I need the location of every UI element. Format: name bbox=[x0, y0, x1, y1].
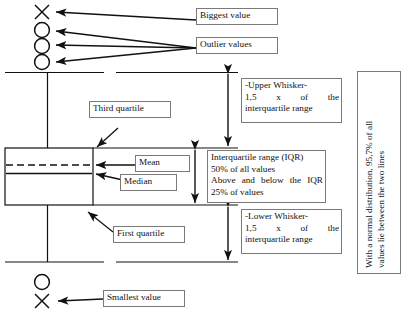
label-median: Median bbox=[120, 174, 177, 191]
iqr-line-3: Above and below the IQR bbox=[211, 175, 323, 187]
top-x-marker bbox=[35, 5, 49, 19]
bottom-x-marker bbox=[35, 294, 49, 308]
arrow-outlier-3 bbox=[56, 48, 196, 62]
iqr-line-2: 50% of all values bbox=[211, 164, 323, 176]
top-circle-marker-2 bbox=[35, 39, 50, 54]
iqr-line-1: Interquartile range (IQR) bbox=[211, 152, 323, 164]
label-smallest-value: Smallest value bbox=[103, 290, 185, 307]
upper-whisker-line-1: -Upper Whisker- bbox=[245, 80, 339, 92]
box-plot-diagram: Biggest value Outlier values Third quart… bbox=[0, 0, 408, 314]
label-lower-whisker: -Lower Whisker- 1,5 x of the interquarti… bbox=[241, 209, 342, 254]
arrow-third-quartile bbox=[97, 128, 118, 147]
lower-whisker-line-2: 1,5 x of the bbox=[245, 223, 339, 235]
label-outlier-values: Outlier values bbox=[196, 37, 278, 54]
lower-whisker-line-1: -Lower Whisker- bbox=[245, 211, 339, 223]
label-biggest-value: Biggest value bbox=[196, 8, 278, 25]
top-circle-marker-3 bbox=[35, 55, 50, 70]
iqr-line-4: 25% of values bbox=[211, 187, 323, 199]
arrow-smallest-value bbox=[58, 299, 103, 301]
side-note-line-2: values lie between the two lines bbox=[375, 78, 387, 268]
label-normal-distribution-note: With a normal distribution, 95,7% of all… bbox=[357, 71, 401, 274]
bottom-circle-marker bbox=[35, 275, 50, 290]
label-iqr: Interquartile range (IQR) 50% of all val… bbox=[207, 150, 326, 203]
label-upper-whisker: -Upper Whisker- 1,5 x of the interquarti… bbox=[241, 78, 342, 123]
arrow-first-quartile bbox=[88, 212, 113, 232]
label-third-quartile: Third quartile bbox=[89, 101, 171, 118]
top-circle-marker-1 bbox=[35, 23, 50, 38]
iqr-box bbox=[5, 148, 93, 205]
normal-distribution-note-text: With a normal distribution, 95,7% of all… bbox=[363, 78, 388, 268]
upper-whisker-line-3: interquartile range bbox=[245, 103, 339, 115]
arrow-biggest-value bbox=[56, 12, 196, 20]
upper-whisker-line-2: 1,5 x of the bbox=[245, 92, 339, 104]
side-note-line-1: With a normal distribution, 95,7% of all bbox=[363, 78, 375, 268]
lower-whisker-line-3: interquartile range bbox=[245, 234, 339, 246]
label-mean: Mean bbox=[135, 155, 190, 172]
label-first-quartile: First quartile bbox=[113, 226, 185, 243]
